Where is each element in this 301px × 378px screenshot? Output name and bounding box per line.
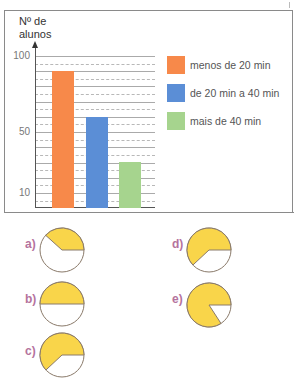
y-axis-arrow-icon xyxy=(32,41,38,48)
legend-swatch-blue xyxy=(167,84,185,102)
bar-3 xyxy=(119,162,141,208)
legend-swatch-orange xyxy=(167,56,185,74)
y-axis xyxy=(35,46,36,208)
pie-chart-option-b[interactable] xyxy=(39,281,85,327)
legend-label: mais de 40 min xyxy=(190,115,261,127)
y-tick-10: 10 xyxy=(6,187,30,198)
legend-label: de 20 min a 40 min xyxy=(190,87,279,99)
legend-item-20-40: de 20 min a 40 min xyxy=(167,84,279,102)
y-tick-50: 50 xyxy=(6,126,30,137)
pie-highlight-sector xyxy=(40,282,84,304)
gridline-100 xyxy=(35,56,155,57)
corner-mark xyxy=(289,2,290,8)
legend-swatch-green xyxy=(167,112,185,130)
pie-chart-option-a[interactable] xyxy=(39,227,85,273)
y-axis-label-line2: alunos xyxy=(19,28,51,41)
bar-1 xyxy=(52,71,74,208)
pie-chart-option-e[interactable] xyxy=(186,282,232,328)
pie-chart-option-d[interactable] xyxy=(186,227,232,273)
pie-chart-option-c[interactable] xyxy=(39,332,85,378)
y-axis-label: Nº de alunos xyxy=(19,15,51,41)
legend-item-mais-40: mais de 40 min xyxy=(167,112,261,130)
chart-frame-bottom xyxy=(4,212,294,213)
option-b-label[interactable]: b) xyxy=(25,292,36,306)
option-e-label[interactable]: e) xyxy=(172,292,183,306)
legend-label: menos de 20 min xyxy=(190,59,271,71)
y-tick-100: 100 xyxy=(6,50,30,61)
legend-item-menos-20: menos de 20 min xyxy=(167,56,271,74)
option-c-label[interactable]: c) xyxy=(25,344,36,358)
option-a-label[interactable]: a) xyxy=(25,237,36,251)
gridline-95 xyxy=(35,64,155,65)
option-d-label[interactable]: d) xyxy=(172,237,183,251)
y-axis-label-line1: Nº de xyxy=(19,15,51,28)
bar-2 xyxy=(86,117,108,208)
